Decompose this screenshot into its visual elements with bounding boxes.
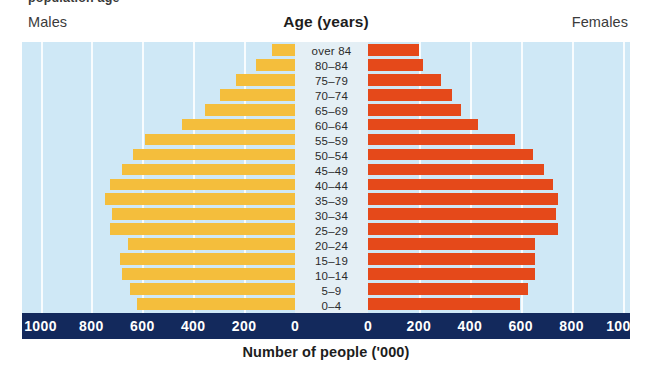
pyramid-row: 60–64 [22,119,630,134]
pyramid-row: 35–39 [22,193,630,208]
age-group-label: 0–4 [295,300,368,312]
pyramid-row: over 84 [22,44,630,59]
bar-female-80-84 [368,59,423,71]
age-group-label: 15–19 [295,255,368,267]
age-group-label: 65–69 [295,105,368,117]
x-tick-female-800: 800 [559,318,584,334]
bar-female-0-4 [368,298,520,310]
cut-off-caption: population age [28,0,120,5]
bar-male-50-54 [133,149,295,161]
population-pyramid-figure: population age Males Age (years) Females… [0,0,652,369]
bar-female-75-79 [368,74,441,86]
bar-male-35-39 [105,193,295,205]
age-group-label: 60–64 [295,120,368,132]
bar-male-45-49 [122,164,295,176]
age-axis-title: Age (years) [0,13,652,31]
bar-male-80-84 [256,59,295,71]
age-group-label: 50–54 [295,150,368,162]
bar-male-25-29 [110,223,295,235]
pyramid-row: 65–69 [22,104,630,119]
bar-male-65-69 [205,104,295,116]
pyramid-row: 0–4 [22,298,630,313]
x-tick-male-600: 600 [130,318,155,334]
age-group-label: 20–24 [295,240,368,252]
bar-female-10-14 [368,268,535,280]
x-tick-male-200: 200 [232,318,257,334]
age-group-label: 45–49 [295,165,368,177]
bar-female-20-24 [368,238,535,250]
pyramid-row: 50–54 [22,149,630,164]
x-axis-band: 1000800600400200002004006008001000 [22,313,630,339]
x-tick-female-0: 0 [364,318,372,334]
bar-male-over-84 [272,44,295,56]
bar-male-55-59 [145,134,295,146]
age-group-label: 80–84 [295,60,368,72]
x-tick-male-400: 400 [181,318,206,334]
bar-male-0-4 [137,298,295,310]
bar-female-40-44 [368,179,553,191]
bar-male-30-34 [112,208,295,220]
pyramid-row: 20–24 [22,238,630,253]
x-tick-female-600: 600 [508,318,533,334]
age-group-label: 55–59 [295,135,368,147]
pyramid-row: 15–19 [22,253,630,268]
x-tick-female-1000: 1000 [606,318,639,334]
chart-header: Males Age (years) Females [0,14,652,40]
bar-male-10-14 [122,268,295,280]
age-group-label: 35–39 [295,195,368,207]
age-group-label: 40–44 [295,180,368,192]
x-tick-female-400: 400 [458,318,483,334]
pyramid-row: 10–14 [22,268,630,283]
bar-female-5-9 [368,283,528,295]
bar-female-70-74 [368,89,452,101]
pyramid-row: 25–29 [22,223,630,238]
pyramid-row: 70–74 [22,89,630,104]
bar-female-25-29 [368,223,558,235]
pyramid-row: 30–34 [22,208,630,223]
bar-male-60-64 [182,119,295,131]
x-tick-male-800: 800 [79,318,104,334]
x-axis-label: Number of people ('000) [0,344,652,360]
females-header-label: Females [572,14,628,30]
bar-female-60-64 [368,119,478,131]
pyramid-row: 75–79 [22,74,630,89]
bar-female-15-19 [368,253,535,265]
bar-female-65-69 [368,104,461,116]
plot-area: over 8480–8475–7970–7465–6960–6455–5950–… [22,42,630,313]
bar-female-50-54 [368,149,533,161]
x-tick-male-0: 0 [291,318,299,334]
age-group-label: 30–34 [295,210,368,222]
bar-female-55-59 [368,134,515,146]
age-group-label: 25–29 [295,225,368,237]
pyramid-row: 45–49 [22,164,630,179]
age-group-label: 75–79 [295,75,368,87]
bar-male-75-79 [236,74,295,86]
bar-female-30-34 [368,208,556,220]
bar-female-over-84 [368,44,419,56]
bar-female-35-39 [368,193,558,205]
bar-male-20-24 [128,238,295,250]
x-tick-male-1000: 1000 [24,318,57,334]
bar-male-70-74 [220,89,295,101]
pyramid-row: 5–9 [22,283,630,298]
pyramid-row: 40–44 [22,179,630,194]
bar-female-45-49 [368,164,544,176]
age-group-label: 10–14 [295,270,368,282]
age-group-label: 5–9 [295,285,368,297]
bar-male-15-19 [120,253,295,265]
age-group-label: over 84 [295,45,368,57]
pyramid-row: 80–84 [22,59,630,74]
pyramid-row: 55–59 [22,134,630,149]
bar-male-5-9 [130,283,295,295]
age-group-label: 70–74 [295,90,368,102]
bar-male-40-44 [110,179,295,191]
x-tick-female-200: 200 [407,318,432,334]
